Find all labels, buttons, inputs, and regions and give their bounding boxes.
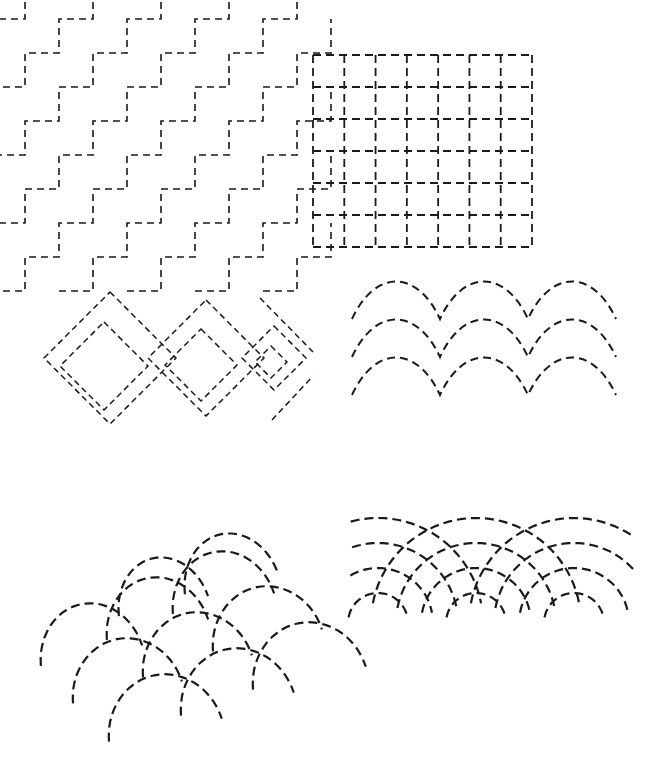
stitch-path (181, 648, 294, 715)
stitch-path (44, 292, 176, 424)
stitch-path (520, 568, 628, 613)
panel-staircase (25, 42, 240, 257)
quarterfans-drawing (368, 505, 616, 625)
stitch-path (0, 0, 331, 291)
stitch-path (272, 376, 313, 420)
panel-scallops (352, 283, 617, 383)
grid-strokes (313, 55, 532, 247)
staircase-strokes (0, 0, 331, 291)
stitch-path (173, 551, 274, 614)
diamonds-strokes (44, 292, 313, 424)
stitch-path (397, 543, 554, 608)
panel-grid (313, 55, 532, 247)
stitch-path (165, 329, 237, 401)
stitch-path (148, 300, 264, 416)
scallops-strokes (352, 282, 616, 396)
quarterfans-strokes (349, 518, 635, 617)
stitch-path (0, 0, 127, 291)
stitch-path (119, 557, 209, 616)
grid-drawing (313, 55, 532, 247)
fanscale-drawing (55, 495, 320, 735)
stitch-path (143, 612, 252, 677)
stitch-path (109, 674, 222, 741)
stitch-path (0, 0, 59, 291)
scallops-drawing (352, 283, 617, 383)
panel-fanscale (55, 495, 320, 735)
stitch-path (352, 320, 616, 358)
stitch-path (422, 568, 530, 613)
stitch-path (260, 298, 313, 352)
stitch-path (351, 518, 481, 603)
stitch-path (213, 586, 322, 651)
stitch-path (255, 346, 287, 378)
stitch-path (352, 282, 616, 320)
pattern-plate (0, 0, 653, 762)
stitch-path (41, 603, 142, 666)
staircase-drawing (25, 42, 240, 257)
fanscale-strokes (41, 534, 366, 742)
stitch-path (185, 534, 278, 595)
stitch-path (350, 568, 432, 613)
panel-quarterfans (368, 505, 616, 625)
stitch-path (471, 518, 633, 603)
stitch-path (0, 0, 195, 291)
diamonds-drawing (28, 272, 313, 444)
stitch-path (352, 358, 616, 396)
stitch-path (253, 622, 366, 689)
panel-diamonds (28, 272, 313, 444)
stitch-path (0, 0, 263, 291)
stitch-path (495, 543, 634, 608)
stitch-path (60, 322, 148, 410)
stitch-path (73, 638, 182, 703)
